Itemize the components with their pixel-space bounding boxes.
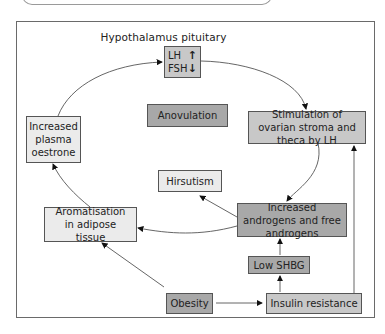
arrow-androgens-to-aromatisation: [138, 226, 237, 233]
node-increased-plasma-oestrone: Increased plasma oestrone: [26, 116, 81, 163]
node-stimulation: Stimulation of ovarian stroma and theca …: [248, 111, 366, 144]
node-aromatisation: Aromatisation in adipose tissue: [44, 207, 137, 242]
arrow-androgens-to-hirsutism: [200, 196, 237, 217]
node-insulin-resistance: Insulin resistance: [266, 293, 362, 314]
node-increased-androgens: Increased androgens and free androgens: [237, 203, 347, 237]
fsh-label: FSH: [168, 62, 187, 75]
lh-label: LH: [168, 49, 181, 62]
arrow-down-icon: ↓: [188, 62, 197, 75]
arrow-up-icon: ↑: [188, 49, 197, 62]
node-low-shbg: Low SHBG: [248, 256, 310, 274]
arrow-obesity-to-aromatisation: [102, 243, 164, 287]
node-hirsutism: Hirsutism: [158, 170, 222, 192]
arrow-pituitary-to-stimulation: [201, 61, 306, 109]
node-anovulation: Anovulation: [147, 104, 228, 127]
pituitary-hormone-box: LH ↑ FSH ↓: [164, 46, 201, 78]
arrow-aromatisation-to-oestrone: [53, 164, 90, 207]
node-obesity: Obesity: [166, 293, 213, 314]
arrow-stimulation-to-androgens: [287, 143, 319, 201]
